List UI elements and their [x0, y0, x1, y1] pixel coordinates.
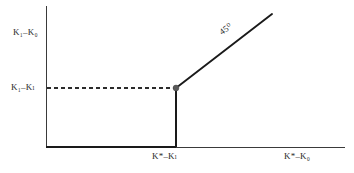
y-axis-top-label: K₁–K₀: [13, 27, 38, 37]
kink-point-marker: [173, 85, 179, 91]
y-axis-kink-label: K₁–Kₗ: [11, 82, 35, 92]
plot-canvas: [0, 0, 354, 173]
x-axis-right-label: K*–K₀: [284, 151, 310, 161]
figure-container: K₁–K₀ K₁–Kₗ K*–Kₗ K*–K₀ 45⁰: [0, 0, 354, 173]
x-axis-kink-label: K*–Kₗ: [152, 151, 177, 161]
